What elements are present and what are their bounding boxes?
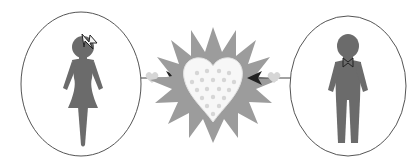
love-illustration: Love connection xyxy=(0,0,420,167)
woman-figure-group xyxy=(21,12,141,156)
man-icon xyxy=(328,34,368,143)
man-figure-group xyxy=(290,16,406,156)
burst-heart-group xyxy=(150,27,278,143)
woman-icon xyxy=(63,36,103,147)
